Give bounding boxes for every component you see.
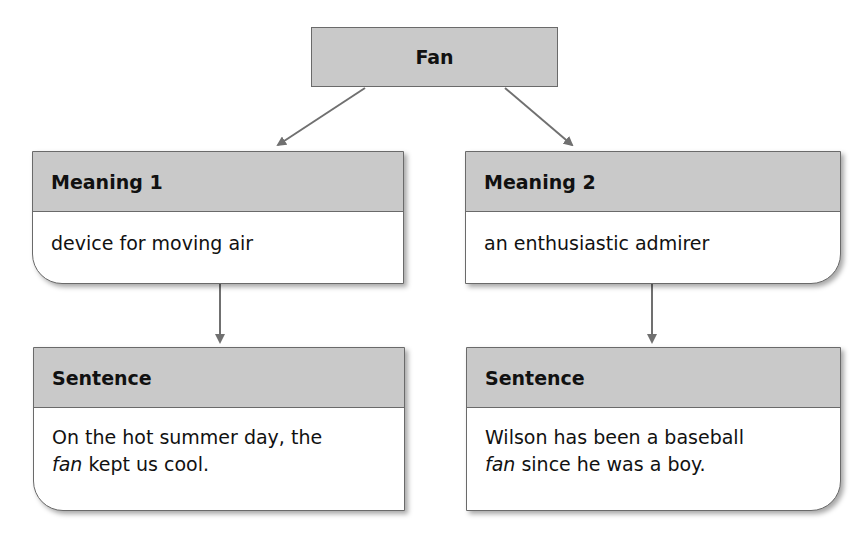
meaning-1-header: Meaning 1 xyxy=(33,152,403,212)
sentence-1-box: Sentence On the hot summer day, the fan … xyxy=(33,347,405,511)
sentence-2-italic-word: fan xyxy=(485,453,515,475)
meaning-1-text: device for moving air xyxy=(33,212,403,257)
meaning-2-box: Meaning 2 an enthusiastic admirer xyxy=(465,151,841,284)
sentence-1-text: On the hot summer day, the fan kept us c… xyxy=(34,408,404,478)
sentence-2-box: Sentence Wilson has been a baseball fan … xyxy=(466,347,841,511)
meaning-1-box: Meaning 1 device for moving air xyxy=(32,151,404,284)
sentence-1-text-before: On the hot summer day, the xyxy=(52,426,322,448)
sentence-2-text-after: since he was a boy. xyxy=(515,453,705,475)
root-label: Fan xyxy=(415,46,453,68)
arrow-root-to-meaning-2 xyxy=(505,88,572,145)
meaning-2-text: an enthusiastic admirer xyxy=(466,212,840,257)
sentence-1-italic-word: fan xyxy=(52,453,82,475)
sentence-2-text-before: Wilson has been a baseball xyxy=(485,426,744,448)
sentence-2-header: Sentence xyxy=(467,348,840,408)
sentence-2-text: Wilson has been a baseball fan since he … xyxy=(467,408,840,478)
meaning-2-header: Meaning 2 xyxy=(466,152,840,212)
sentence-1-text-after: kept us cool. xyxy=(82,453,209,475)
arrow-root-to-meaning-1 xyxy=(278,88,365,145)
root-node-fan: Fan xyxy=(311,27,558,87)
sentence-1-header: Sentence xyxy=(34,348,404,408)
